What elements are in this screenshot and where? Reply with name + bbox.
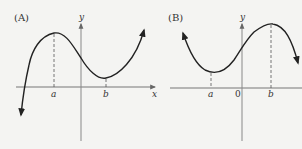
panel-a-tick-a: a bbox=[51, 89, 56, 99]
panel-b-curve bbox=[205, 24, 298, 73]
panel-b-tick-b: b bbox=[268, 89, 274, 99]
panel-a-tick-b: b bbox=[103, 89, 109, 99]
figure-canvas: (A) y x a b (B) y 0 a b bbox=[0, 0, 302, 149]
panel-a-curve bbox=[29, 30, 144, 78]
panel-a-x-label: x bbox=[152, 89, 157, 99]
panel-b: (B) y 0 a b bbox=[168, 12, 302, 141]
panel-a-y-label: y bbox=[78, 12, 85, 22]
panel-a-label: (A) bbox=[14, 12, 29, 23]
panel-a-curve-left-tail bbox=[21, 65, 29, 115]
panel-b-y-label: y bbox=[239, 12, 246, 22]
panel-b-curve-left-tail bbox=[183, 33, 205, 70]
panel-b-tick-a: a bbox=[208, 89, 213, 99]
panel-b-origin-label: 0 bbox=[235, 89, 241, 99]
panel-b-label: (B) bbox=[168, 12, 183, 23]
panel-a: (A) y x a b bbox=[14, 12, 157, 141]
